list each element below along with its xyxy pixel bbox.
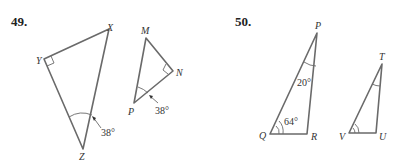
vertex-m-label: M: [140, 25, 150, 36]
triangle-pqr: P Q R 20° 64°: [259, 20, 321, 142]
angle-z-label: 38°: [101, 127, 115, 138]
triangle-tuv-edges: [349, 64, 382, 133]
vertex-t-label: T: [379, 51, 386, 62]
vertex-p-label: P: [314, 20, 321, 31]
angle-q-label: 64°: [284, 116, 298, 127]
vertex-x-label: X: [106, 22, 114, 33]
vertex-z-label: Z: [79, 151, 85, 162]
right-angle-mark-n: [163, 64, 168, 74]
vertex-p-label: P: [127, 106, 134, 117]
vertex-y-label: Y: [36, 55, 43, 66]
vertex-v-label: V: [339, 131, 347, 142]
angle-arc-t: [372, 84, 380, 86]
angle-arc-v-outer: [355, 124, 359, 133]
angle-arc-z: [69, 113, 92, 117]
triangle-xyz: X Y Z 38°: [36, 22, 115, 162]
vertex-r-label: R: [310, 131, 317, 142]
vertex-u-label: U: [379, 131, 387, 142]
triangle-mnp-edges: [134, 38, 173, 103]
angle-arc-q-inner: [276, 126, 279, 134]
triangle-mnp: M N P 38°: [127, 25, 184, 117]
vertex-n-label: N: [175, 67, 184, 78]
angle-p-label: 20°: [297, 77, 311, 88]
triangle-xyz-edges: [44, 29, 109, 149]
vertex-q-label: Q: [259, 130, 267, 141]
triangle-tuv: T U V: [339, 51, 387, 142]
angle-p-label: 38°: [155, 105, 169, 116]
angle-arc-p: [138, 87, 148, 93]
geometry-figure: X Y Z 38° M N P 38° P Q R 20° 64°: [0, 0, 400, 164]
